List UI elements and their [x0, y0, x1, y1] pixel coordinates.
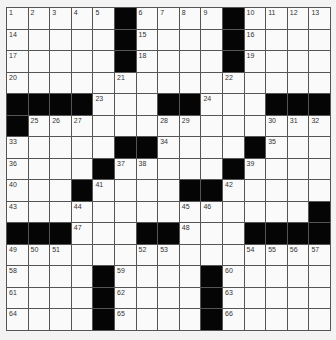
grid-cell[interactable]	[309, 180, 331, 202]
grid-cell[interactable]	[50, 288, 72, 310]
grid-cell[interactable]	[245, 94, 267, 116]
grid-cell[interactable]	[93, 137, 115, 159]
grid-cell[interactable]	[266, 309, 288, 331]
grid-cell[interactable]	[245, 116, 267, 138]
grid-cell[interactable]: 14	[7, 30, 29, 52]
grid-cell[interactable]	[180, 309, 202, 331]
grid-cell[interactable]: 54	[245, 245, 267, 267]
grid-cell[interactable]: 47	[72, 223, 94, 245]
grid-cell[interactable]	[72, 30, 94, 52]
grid-cell[interactable]: 32	[309, 116, 331, 138]
grid-cell[interactable]	[115, 94, 137, 116]
grid-cell[interactable]	[201, 73, 223, 95]
grid-cell[interactable]	[72, 51, 94, 73]
grid-cell[interactable]: 46	[201, 202, 223, 224]
grid-cell[interactable]: 58	[7, 266, 29, 288]
grid-cell[interactable]	[266, 159, 288, 181]
grid-cell[interactable]	[309, 51, 331, 73]
grid-cell[interactable]	[93, 223, 115, 245]
grid-cell[interactable]	[201, 51, 223, 73]
grid-cell[interactable]	[180, 51, 202, 73]
grid-cell[interactable]	[50, 202, 72, 224]
grid-cell[interactable]	[72, 266, 94, 288]
grid-cell[interactable]	[288, 73, 310, 95]
grid-cell[interactable]: 3	[50, 8, 72, 30]
grid-cell[interactable]: 33	[7, 137, 29, 159]
grid-cell[interactable]	[50, 266, 72, 288]
grid-cell[interactable]	[288, 309, 310, 331]
grid-cell[interactable]	[288, 159, 310, 181]
grid-cell[interactable]: 10	[245, 8, 267, 30]
grid-cell[interactable]	[309, 266, 331, 288]
grid-cell[interactable]	[201, 116, 223, 138]
grid-cell[interactable]	[180, 245, 202, 267]
grid-cell[interactable]	[180, 288, 202, 310]
grid-cell[interactable]: 57	[309, 245, 331, 267]
grid-cell[interactable]	[180, 73, 202, 95]
grid-cell[interactable]	[50, 137, 72, 159]
grid-cell[interactable]	[288, 180, 310, 202]
grid-cell[interactable]	[137, 73, 159, 95]
grid-cell[interactable]: 41	[93, 180, 115, 202]
grid-cell[interactable]	[29, 266, 51, 288]
grid-cell[interactable]	[180, 266, 202, 288]
grid-cell[interactable]: 25	[29, 116, 51, 138]
grid-cell[interactable]: 56	[288, 245, 310, 267]
grid-cell[interactable]	[72, 245, 94, 267]
grid-cell[interactable]	[245, 73, 267, 95]
grid-cell[interactable]: 16	[245, 30, 267, 52]
grid-cell[interactable]	[115, 116, 137, 138]
grid-cell[interactable]: 22	[223, 73, 245, 95]
grid-cell[interactable]	[93, 116, 115, 138]
grid-cell[interactable]	[29, 288, 51, 310]
grid-cell[interactable]: 31	[288, 116, 310, 138]
grid-cell[interactable]: 23	[93, 94, 115, 116]
grid-cell[interactable]: 15	[137, 30, 159, 52]
grid-cell[interactable]: 30	[266, 116, 288, 138]
grid-cell[interactable]	[93, 51, 115, 73]
grid-cell[interactable]	[266, 73, 288, 95]
grid-cell[interactable]	[115, 223, 137, 245]
grid-cell[interactable]: 2	[29, 8, 51, 30]
grid-cell[interactable]	[201, 245, 223, 267]
grid-cell[interactable]	[180, 137, 202, 159]
grid-cell[interactable]: 40	[7, 180, 29, 202]
grid-cell[interactable]	[93, 245, 115, 267]
grid-cell[interactable]	[309, 159, 331, 181]
grid-cell[interactable]	[309, 288, 331, 310]
grid-cell[interactable]	[223, 223, 245, 245]
grid-cell[interactable]: 59	[115, 266, 137, 288]
grid-cell[interactable]: 28	[158, 116, 180, 138]
grid-cell[interactable]	[29, 137, 51, 159]
grid-cell[interactable]: 42	[223, 180, 245, 202]
grid-cell[interactable]	[29, 309, 51, 331]
grid-cell[interactable]	[158, 266, 180, 288]
grid-cell[interactable]: 55	[266, 245, 288, 267]
grid-cell[interactable]	[72, 288, 94, 310]
grid-cell[interactable]: 60	[223, 266, 245, 288]
grid-cell[interactable]	[158, 309, 180, 331]
grid-cell[interactable]: 43	[7, 202, 29, 224]
grid-cell[interactable]	[29, 51, 51, 73]
grid-cell[interactable]	[72, 73, 94, 95]
grid-cell[interactable]	[288, 266, 310, 288]
grid-cell[interactable]	[245, 180, 267, 202]
grid-cell[interactable]	[72, 137, 94, 159]
grid-cell[interactable]: 11	[266, 8, 288, 30]
grid-cell[interactable]	[72, 159, 94, 181]
grid-cell[interactable]	[201, 30, 223, 52]
grid-cell[interactable]	[158, 202, 180, 224]
grid-cell[interactable]	[50, 30, 72, 52]
grid-cell[interactable]	[72, 309, 94, 331]
grid-cell[interactable]: 4	[72, 8, 94, 30]
grid-cell[interactable]	[158, 73, 180, 95]
grid-cell[interactable]	[223, 116, 245, 138]
grid-cell[interactable]: 49	[7, 245, 29, 267]
grid-cell[interactable]	[50, 73, 72, 95]
grid-cell[interactable]: 65	[115, 309, 137, 331]
grid-cell[interactable]: 12	[288, 8, 310, 30]
grid-cell[interactable]: 9	[201, 8, 223, 30]
grid-cell[interactable]	[137, 116, 159, 138]
grid-cell[interactable]: 13	[309, 8, 331, 30]
grid-cell[interactable]	[266, 202, 288, 224]
